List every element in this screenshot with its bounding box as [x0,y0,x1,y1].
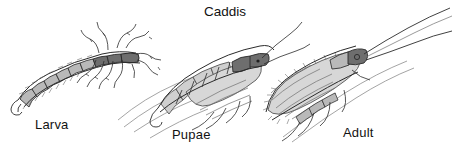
larva-body-segments [20,59,96,107]
pupae-drawing [118,22,310,138]
larva-drawing [11,22,161,115]
pupae-tail [150,108,162,127]
caddis-life-cycle-figure: Caddis Larva Pupae Adult [0,0,453,154]
stage-label-pupae: Pupae [172,128,211,141]
adult-antennae-shadow [366,16,452,57]
adult-head [348,49,368,65]
adult-antennae [364,8,452,60]
larva-head [121,53,139,63]
stage-label-larva: Larva [35,118,69,131]
figure-title: Caddis [204,5,246,19]
pupae-eye [256,59,259,62]
stage-label-adult: Adult [343,126,374,139]
adult-drawing [263,8,452,142]
